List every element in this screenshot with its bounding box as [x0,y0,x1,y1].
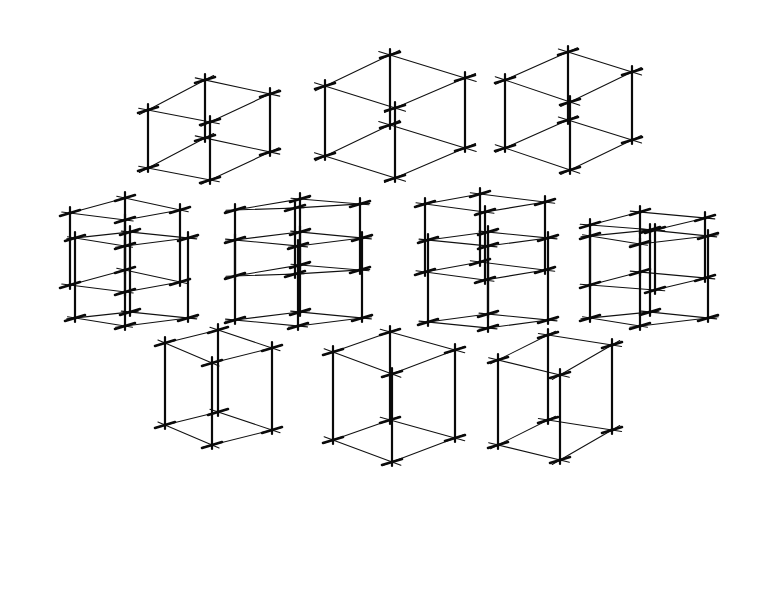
cube-2 [315,49,477,183]
cube-1 [138,74,280,184]
cube-10 [418,226,558,332]
cube-3 [495,46,642,175]
cube-13 [323,326,465,466]
cube-14 [488,329,622,465]
cube-9 [225,226,372,330]
cube-12 [155,324,282,449]
cube-8 [65,226,198,330]
cube-6 [415,188,555,284]
wireframe-cubes-drawing [0,0,778,597]
cube-7 [580,206,715,294]
